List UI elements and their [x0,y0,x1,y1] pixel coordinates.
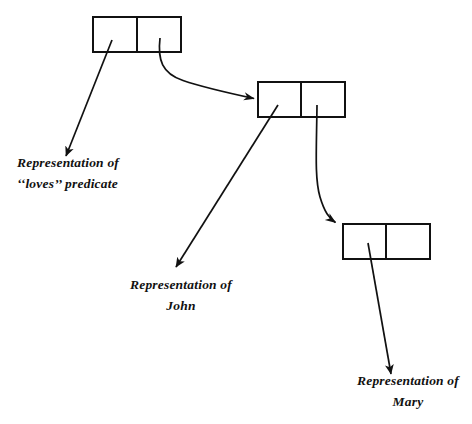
diagram-canvas [0,0,472,424]
mary-node-right-cell[interactable] [386,224,430,259]
loves-caption-line-2: ‘‘loves’’ predicate [17,174,119,195]
john-caption-line-1: Representation of [118,275,244,296]
mary-node-left-cell[interactable] [343,224,386,259]
loves-caption-line-1: Representation of [17,153,119,174]
john-node-left-cell[interactable] [258,82,301,117]
mary-caption-line-2: Mary [346,392,470,413]
mary-pointer-arrow [368,243,391,374]
john-caption-line-2: John [118,296,244,317]
loves-node-left-cell[interactable] [93,17,137,52]
john-caption: Representation of John [118,275,244,317]
john-to-mary-node-arrow [316,105,335,223]
loves-caption: Representation of ‘‘loves’’ predicate [17,153,119,195]
loves-node-right-cell[interactable] [137,17,181,52]
john-node-right-cell[interactable] [301,82,345,117]
mary-caption: Representation of Mary [346,371,470,413]
loves-pointer-arrow [66,40,112,156]
semantic-network-figure: Representation of ‘‘loves’’ predicate Re… [0,0,472,424]
mary-caption-line-1: Representation of [346,371,470,392]
john-pointer-arrow [176,105,278,267]
